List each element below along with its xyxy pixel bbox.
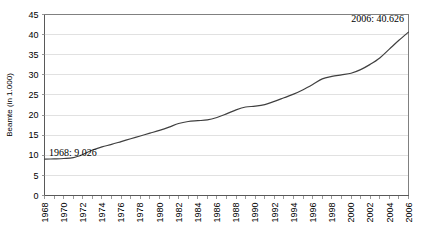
x-tick-label: 1980 [155, 203, 165, 223]
line-chart-figure: 051015202530354045 196819701972197419761… [0, 0, 421, 246]
plot-area-border [45, 15, 409, 196]
x-tick-label: 1968 [40, 203, 50, 223]
y-tick-label: 25 [28, 90, 38, 100]
x-tick-label: 2000 [346, 203, 356, 223]
x-tick-label: 1986 [212, 203, 222, 223]
gridlines-group [45, 35, 409, 176]
x-tick-label: 1974 [97, 203, 107, 223]
annotation-start-value: 1968: 9.026 [49, 147, 97, 158]
y-tick-label: 20 [28, 110, 38, 120]
x-tick-label: 1996 [308, 203, 318, 223]
x-tick-label: 2004 [385, 203, 395, 223]
y-tick-label: 35 [28, 50, 38, 60]
x-tick-label: 2002 [365, 203, 375, 223]
x-tick-label: 1976 [116, 203, 126, 223]
chart-canvas: 051015202530354045 196819701972197419761… [0, 0, 421, 246]
annotation-end-value: 2006: 40.626 [351, 13, 404, 24]
x-tick-label: 1992 [270, 203, 280, 223]
x-tick-label: 1970 [59, 203, 69, 223]
x-tick-label: 1978 [135, 203, 145, 223]
y-axis-title: Beamte (in 1.000) [5, 73, 14, 137]
y-tick-label: 45 [28, 10, 38, 20]
x-tick-label: 1990 [250, 203, 260, 223]
x-tick-label: 1984 [193, 203, 203, 223]
y-tick-label: 30 [28, 70, 38, 80]
x-tick-label: 1988 [231, 203, 241, 223]
y-axis-tick-labels-group: 051015202530354045 [28, 10, 38, 201]
y-tick-label: 10 [28, 150, 38, 160]
data-series-beamte [45, 32, 409, 159]
y-tick-label: 5 [33, 171, 38, 181]
x-tick-label: 1994 [289, 203, 299, 223]
y-tick-label: 40 [28, 30, 38, 40]
x-tick-label: 1972 [78, 203, 88, 223]
y-tick-label: 0 [33, 191, 38, 201]
x-tick-label: 1982 [174, 203, 184, 223]
y-tick-label: 15 [28, 130, 38, 140]
x-tick-label: 2006 [404, 203, 414, 223]
x-axis-tick-labels-group: 1968197019721974197619781980198219841986… [40, 203, 414, 223]
x-tick-label: 1998 [327, 203, 337, 223]
